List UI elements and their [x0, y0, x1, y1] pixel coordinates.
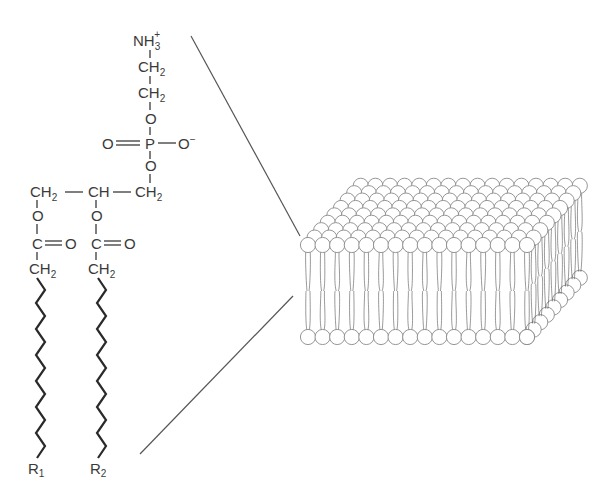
- ester1-oxygen: O: [32, 207, 44, 224]
- connector-line-bottom: [140, 296, 293, 454]
- ester2-carbon: C: [91, 235, 102, 252]
- glycerol-ch2-left: CH2: [30, 183, 58, 203]
- glycerol-ch: CH: [88, 183, 110, 200]
- r2-label: R2: [90, 460, 107, 479]
- ester2-oxygen: O: [91, 207, 103, 224]
- ester1-carbonyl-oxygen: O: [65, 235, 77, 252]
- fatty-acid-tail-1: [36, 278, 45, 458]
- r1-label: R1: [28, 460, 45, 479]
- oxygen-anion: O−: [178, 134, 196, 152]
- fatty-acid-tail-2: [97, 278, 106, 458]
- connector-line-top: [191, 36, 300, 236]
- phospholipid-molecule: NH3+ CH2 CH2 O O P O− O CH2 CH CH2 O C: [28, 29, 196, 479]
- phosphorus: P: [145, 135, 155, 152]
- oxygen-ester-bottom: O: [145, 157, 157, 174]
- methylene-2: CH2: [138, 84, 166, 104]
- ester1-ch2: CH2: [29, 260, 57, 280]
- oxygen-ester-top: O: [145, 110, 157, 127]
- methylene-1: CH2: [138, 58, 166, 78]
- glycerol-ch2-right: CH2: [135, 183, 163, 203]
- ester2-carbonyl-oxygen: O: [124, 235, 136, 252]
- phospholipid-diagram: NH3+ CH2 CH2 O O P O− O CH2 CH CH2 O C: [0, 0, 614, 500]
- oxygen-double: O: [102, 135, 114, 152]
- ester1-carbon: C: [32, 235, 43, 252]
- amine-group: NH3+: [133, 29, 161, 52]
- ester2-ch2: CH2: [88, 260, 116, 280]
- lipid-bilayer: [300, 178, 587, 344]
